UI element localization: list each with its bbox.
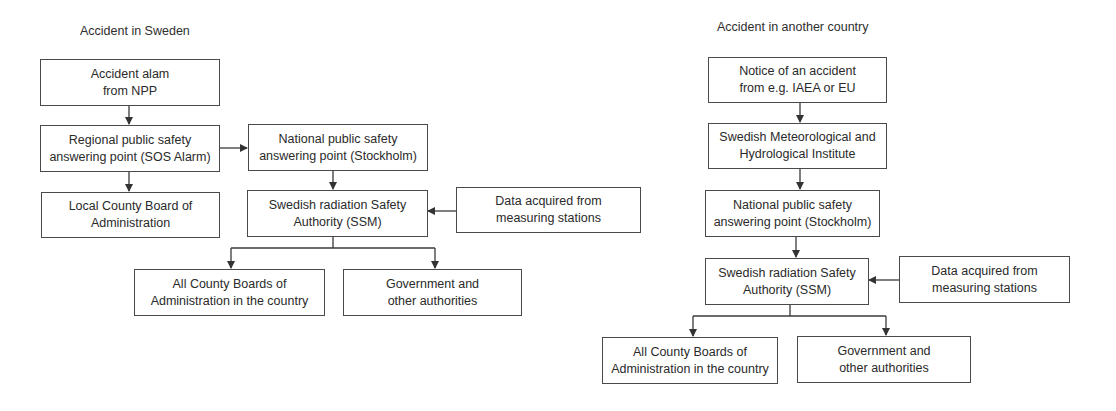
- node-text: other authorities: [386, 293, 479, 310]
- node-government: Government andother authorities: [343, 269, 522, 316]
- node-government-right: Government andother authorities: [797, 336, 971, 383]
- node-text: Authority (SSM): [269, 214, 407, 231]
- node-text: Administration in the country: [151, 293, 309, 310]
- node-text: Hydrological Institute: [719, 146, 875, 163]
- node-text: Data acquired from: [495, 193, 601, 210]
- node-accident-alarm: Accident alamfrom NPP: [40, 59, 220, 106]
- node-measuring-data: Data acquired frommeasuring stations: [456, 187, 641, 233]
- node-all-county-boards: All County Boards ofAdministration in th…: [134, 269, 325, 316]
- node-text: measuring stations: [931, 280, 1037, 297]
- node-text: Swedish radiation Safety: [718, 265, 856, 282]
- node-ssm: Swedish radiation SafetyAuthority (SSM): [247, 190, 428, 237]
- node-text: Government and: [386, 276, 479, 293]
- node-text: Swedish radiation Safety: [269, 197, 407, 214]
- node-text: National public safety: [259, 131, 417, 148]
- node-text: All County Boards of: [151, 276, 309, 293]
- node-text: from e.g. IAEA or EU: [739, 80, 856, 97]
- node-text: Regional public safety: [49, 132, 210, 149]
- node-all-county-boards-right: All County Boards ofAdministration in th…: [602, 337, 778, 384]
- node-national-psap: National public safetyanswering point (S…: [248, 124, 428, 171]
- right-diagram-title: Accident in another country: [717, 20, 868, 34]
- node-regional-psap: Regional public safetyanswering point (S…: [40, 125, 220, 172]
- node-ssm-right: Swedish radiation SafetyAuthority (SSM): [705, 258, 869, 305]
- node-text: Accident alam: [91, 66, 170, 83]
- node-notice: Notice of an accidentfrom e.g. IAEA or E…: [708, 57, 887, 103]
- node-text: from NPP: [91, 83, 170, 100]
- node-text: other authorities: [837, 360, 930, 377]
- node-text: All County Boards of: [611, 344, 769, 361]
- node-national-psap-right: National public safetyanswering point (S…: [705, 190, 880, 237]
- node-smhi: Swedish Meteorological andHydrological I…: [708, 123, 887, 169]
- node-text: Data acquired from: [931, 263, 1037, 280]
- node-text: answering point (Stockholm): [259, 148, 417, 165]
- node-text: Administration in the country: [611, 361, 769, 378]
- node-text: Swedish Meteorological and: [719, 129, 875, 146]
- node-text: Authority (SSM): [718, 282, 856, 299]
- node-text: Government and: [837, 343, 930, 360]
- node-text: measuring stations: [495, 210, 601, 227]
- node-text: Local County Board of: [69, 198, 193, 215]
- node-measuring-data-right: Data acquired frommeasuring stations: [899, 256, 1070, 303]
- node-text: answering point (Stockholm): [714, 214, 872, 231]
- node-text: Notice of an accident: [739, 63, 856, 80]
- left-diagram-title: Accident in Sweden: [80, 24, 190, 38]
- node-text: National public safety: [714, 197, 872, 214]
- node-local-county-board: Local County Board ofAdministration: [41, 192, 220, 238]
- node-text: answering point (SOS Alarm): [49, 149, 210, 166]
- node-text: Administration: [69, 215, 193, 232]
